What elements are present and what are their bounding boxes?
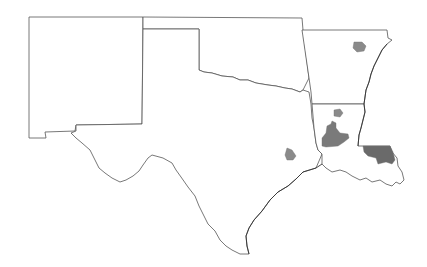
state-new-mexico	[29, 17, 143, 138]
map	[0, 0, 427, 267]
state-arkansas	[302, 30, 392, 104]
